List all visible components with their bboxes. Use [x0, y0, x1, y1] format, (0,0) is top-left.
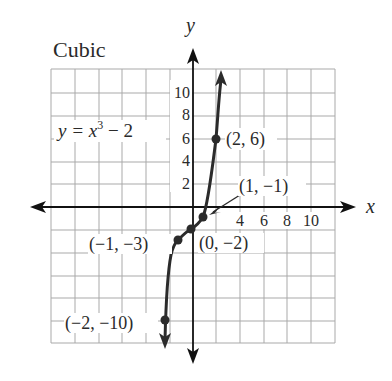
graph-title: Cubic — [53, 37, 106, 62]
point-0-neg2 — [187, 225, 196, 234]
x-axis-label: x — [365, 195, 375, 217]
label-point-0-neg2: (0, −2) — [199, 233, 248, 254]
y-tick-6: 6 — [182, 130, 190, 147]
x-tick-labels: 4 6 8 10 — [232, 212, 322, 229]
label-point-2-6: (2, 6) — [226, 129, 265, 150]
y-tick-labels: 10 8 6 4 2 — [170, 80, 192, 192]
label-point-1-neg1: (1, −1) — [239, 176, 288, 197]
y-axis-label: y — [184, 14, 195, 37]
x-tick-8: 8 — [283, 212, 291, 229]
label-point-neg1-neg3: (−1, −3) — [89, 234, 148, 255]
y-tick-2: 2 — [182, 175, 190, 192]
label-point-neg2-neg10: (−2, −10) — [65, 313, 133, 334]
x-tick-6: 6 — [260, 212, 268, 229]
point-neg1-neg3 — [174, 236, 183, 245]
point-2-6 — [212, 135, 221, 144]
y-tick-10: 10 — [174, 84, 190, 101]
y-tick-4: 4 — [182, 152, 190, 169]
equation-label: y = x3 − 2 — [56, 118, 133, 141]
cubic-graph: Cubic y = x3 − 2 — [0, 0, 392, 381]
x-tick-4: 4 — [236, 212, 244, 229]
x-tick-10: 10 — [303, 212, 319, 229]
point-neg2-neg10 — [161, 316, 170, 325]
y-tick-8: 8 — [182, 106, 190, 123]
point-1-neg1 — [199, 213, 208, 222]
